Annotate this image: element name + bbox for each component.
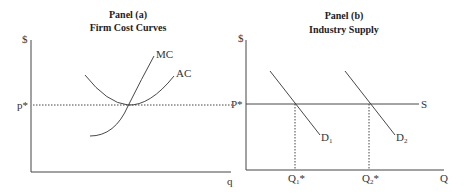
panel-b-title: Panel (b) — [325, 10, 364, 22]
mc-curve — [90, 56, 154, 136]
ac-label: AC — [176, 67, 191, 79]
panel-b-subtitle: Industry Supply — [309, 24, 379, 35]
diagram-canvas: Panel (a) Firm Cost Curves $ q p* MC AC … — [0, 0, 465, 194]
mc-label: MC — [156, 48, 173, 60]
panel-b: Panel (b) Industry Supply $ Q P* S D1 D2… — [231, 10, 448, 186]
ac-curve — [85, 75, 174, 105]
panel-a-title: Panel (a) — [109, 9, 147, 21]
panel-a-x-axis-label: q — [227, 175, 233, 187]
q2-star-label: Q2* — [362, 172, 379, 186]
panel-a-price-label: p* — [17, 99, 28, 111]
demand-2-label: D2 — [396, 131, 408, 145]
panel-b-x-axis-label: Q — [440, 172, 448, 184]
demand-curve-2 — [345, 71, 395, 135]
demand-1-label: D1 — [321, 131, 333, 145]
panel-a-y-axis-label: $ — [22, 33, 28, 45]
supply-label: S — [421, 98, 427, 110]
panel-b-price-label: P* — [231, 98, 243, 110]
panel-a: Panel (a) Firm Cost Curves $ q p* MC AC — [17, 9, 233, 187]
panel-a-subtitle: Firm Cost Curves — [90, 22, 167, 33]
q1-star-label: Q1* — [288, 172, 305, 186]
panel-b-y-axis-label: $ — [238, 32, 244, 44]
